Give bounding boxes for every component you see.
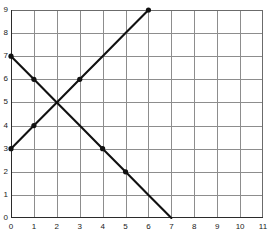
- y-tick-label: 2: [4, 168, 8, 176]
- x-tick-label: 7: [169, 223, 173, 231]
- y-tick-label: 4: [4, 122, 8, 130]
- x-tick-label: 1: [32, 223, 36, 231]
- data-point-marker: [8, 54, 13, 59]
- data-point-marker: [31, 77, 36, 82]
- x-tick-label: 10: [236, 223, 245, 231]
- y-tick-label: 3: [4, 145, 8, 153]
- plot-area: [11, 10, 263, 218]
- x-tick-label: 8: [192, 223, 196, 231]
- data-point-marker: [146, 7, 151, 12]
- x-tick-label: 2: [55, 223, 59, 231]
- x-tick-label: 6: [146, 223, 150, 231]
- data-point-marker: [77, 77, 82, 82]
- x-tick-label: 11: [259, 223, 267, 231]
- x-tick-label: 9: [215, 223, 219, 231]
- data-point-marker: [31, 123, 36, 128]
- data-point-marker: [123, 169, 128, 174]
- y-tick-label: 1: [4, 191, 8, 199]
- y-tick-label: 5: [4, 98, 8, 106]
- y-tick-label: 0: [4, 214, 8, 222]
- x-tick-label: 5: [123, 223, 127, 231]
- data-point-marker: [100, 146, 105, 151]
- x-tick-label: 4: [100, 223, 104, 231]
- y-tick-label: 6: [4, 75, 8, 83]
- x-tick-label: 0: [9, 223, 13, 231]
- y-tick-label: 9: [4, 6, 8, 14]
- y-tick-label: 7: [4, 52, 8, 60]
- series-layer: [11, 10, 263, 218]
- x-tick-label: 3: [77, 223, 81, 231]
- y-tick-label: 8: [4, 29, 8, 37]
- line-chart: 012345678910110123456789: [0, 0, 273, 238]
- data-point-marker: [8, 146, 13, 151]
